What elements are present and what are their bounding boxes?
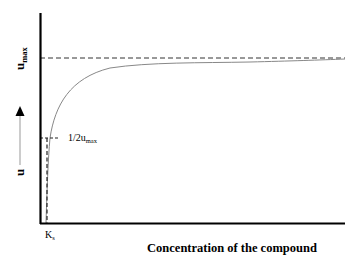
x-axis-label: Concentration of the compound xyxy=(147,241,317,255)
saturation-curve-diagram: umax u 1/2umax Ks Concentration of the c… xyxy=(0,0,360,263)
y-axis-label: u xyxy=(12,169,27,176)
half-max-label: 1/2umax xyxy=(68,132,98,144)
umax-label: umax xyxy=(12,46,29,70)
up-arrow-icon xyxy=(16,106,25,116)
ks-label: Ks xyxy=(45,229,55,241)
